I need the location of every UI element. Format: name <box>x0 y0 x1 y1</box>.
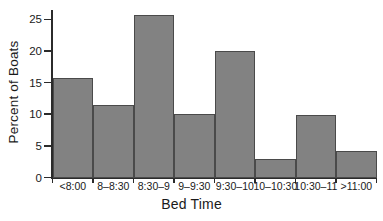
x-axis-title: Bed Time <box>0 196 383 212</box>
x-tick <box>133 178 135 183</box>
x-tick <box>92 178 94 183</box>
x-tick <box>52 178 54 183</box>
x-tick <box>173 178 175 183</box>
bar-10-10-30 <box>255 159 296 177</box>
bar-10-30-11 <box>296 115 337 178</box>
x-tick <box>376 178 378 183</box>
y-tick <box>44 113 52 115</box>
bar-11-00 <box>336 151 377 178</box>
bar-8-30-9 <box>134 15 175 177</box>
bar-8-8-30 <box>93 105 134 177</box>
x-tick-label: 10:30–11 <box>294 180 337 192</box>
histogram-figure: Percent of Boats 0510152025 <8:008–8:308… <box>0 0 383 221</box>
x-tick-label: >11:00 <box>341 180 373 192</box>
y-tick <box>44 145 52 147</box>
x-tick-label: 10–10:30 <box>253 180 297 192</box>
y-tick <box>44 82 52 84</box>
x-tick-label: 9–9:30 <box>178 180 210 192</box>
y-tick <box>44 50 52 52</box>
y-tick-label-group: 0510152025 <box>0 0 42 221</box>
bar-8-00 <box>53 78 94 177</box>
bar-9-30-10 <box>215 51 256 177</box>
y-tick-label: 25 <box>2 13 42 25</box>
bar-9-9-30 <box>174 114 215 177</box>
y-tick-label: 10 <box>2 108 42 120</box>
x-tick-label: 9:30–10 <box>216 180 254 192</box>
y-tick-label: 15 <box>2 77 42 89</box>
y-tick-label: 20 <box>2 45 42 57</box>
x-tick-label: 8–8:30 <box>97 180 129 192</box>
y-tick-label: 0 <box>2 172 42 184</box>
x-tick-label: <8:00 <box>60 180 87 192</box>
y-tick-label: 5 <box>2 140 42 152</box>
x-tick-label: 8:30–9 <box>138 180 170 192</box>
y-tick <box>44 177 52 179</box>
plot-area <box>53 10 377 178</box>
y-tick <box>44 19 52 21</box>
